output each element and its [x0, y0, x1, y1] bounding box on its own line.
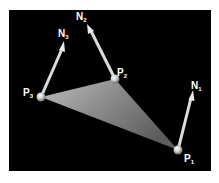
label-p2: P2	[117, 67, 128, 79]
triangle-face	[41, 79, 178, 150]
normal-arrow-n1	[178, 90, 195, 150]
label-p3: P3	[23, 87, 34, 99]
normal-arrow-n3	[41, 41, 65, 97]
label-p1: P1	[184, 153, 195, 165]
triangle-normals-diagram: P1 P2 P3 N1 N2 N3	[0, 0, 219, 183]
vertex-sphere-p1	[174, 146, 183, 155]
vertex-sphere-p3	[37, 93, 46, 102]
normal-arrow-n2	[87, 24, 115, 79]
label-n2: N2	[76, 11, 87, 23]
label-n3: N3	[58, 28, 69, 40]
label-n1: N1	[191, 80, 202, 92]
